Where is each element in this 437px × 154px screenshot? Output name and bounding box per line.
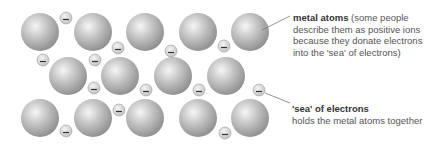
electron xyxy=(88,82,100,94)
metal-atoms-label-title: metal atoms xyxy=(293,12,348,23)
metal-atom xyxy=(207,57,245,95)
metal-atom xyxy=(101,57,139,95)
electron xyxy=(60,12,72,24)
metal-atoms-group xyxy=(21,13,269,137)
electron xyxy=(219,127,231,139)
electron xyxy=(140,84,152,96)
metal-atom xyxy=(21,99,59,137)
metal-atom xyxy=(74,13,112,51)
electron xyxy=(112,42,124,54)
metal-atom xyxy=(21,13,59,51)
metal-atom xyxy=(74,99,112,137)
metal-atom xyxy=(179,99,217,137)
electron xyxy=(253,84,265,96)
metal-atom xyxy=(126,99,164,137)
metal-atoms-label: metal atoms (some people describe them a… xyxy=(293,12,437,58)
metal-atom xyxy=(179,13,217,51)
electron xyxy=(37,54,49,66)
metal-atom xyxy=(49,57,87,95)
sea-of-electrons-label: 'sea' of electrons holds the metal atoms… xyxy=(292,103,436,126)
metal-atom xyxy=(231,99,269,137)
metal-atom xyxy=(231,13,269,51)
sea-leader-line xyxy=(265,93,290,103)
sea-label-title: 'sea' of electrons xyxy=(292,103,369,114)
electron xyxy=(113,104,125,116)
electron xyxy=(165,45,177,57)
metal-atom xyxy=(154,57,192,95)
sea-label-text: holds the metal atoms together xyxy=(292,115,422,126)
electron xyxy=(193,84,205,96)
electron xyxy=(89,54,101,66)
metal-atom xyxy=(126,13,164,51)
electron xyxy=(218,40,230,52)
electron xyxy=(60,125,72,137)
